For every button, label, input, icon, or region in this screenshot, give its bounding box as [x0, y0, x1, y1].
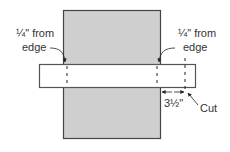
left-mark-arrow	[50, 48, 65, 62]
right-mark-arrow	[159, 48, 175, 62]
cut-label: Cut	[200, 102, 217, 114]
horizontal-board	[40, 65, 196, 88]
right-mark-label-line2: edge	[183, 41, 207, 53]
dimension-label: 3½"	[164, 97, 183, 109]
left-mark-label-line2: edge	[22, 41, 46, 53]
cut-arrow	[188, 93, 198, 105]
right-mark-label-line1: ¼" from	[178, 27, 216, 39]
cut-diagram: ¼" from edge ¼" from edge 3½" Cut	[0, 0, 230, 152]
left-mark-label-line1: ¼" from	[16, 27, 54, 39]
